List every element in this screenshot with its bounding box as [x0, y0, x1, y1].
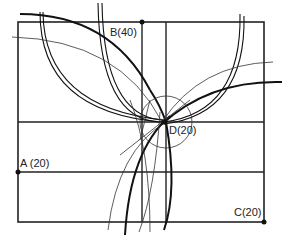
- arc-thin-left: [12, 37, 162, 122]
- arc-u-right-1: [164, 14, 240, 122]
- diagram-canvas: A (20) B(40) C(20) D(20): [0, 0, 293, 245]
- label-a: A (20): [20, 157, 49, 169]
- point-b: [140, 20, 145, 25]
- arc-down-thick-right: [164, 122, 172, 230]
- arc-lens-left-1: [40, 12, 162, 122]
- label-d: D(20): [169, 124, 197, 136]
- label-c: C(20): [234, 206, 262, 218]
- point-d: [162, 120, 167, 125]
- point-a: [16, 170, 21, 175]
- point-c: [262, 220, 267, 225]
- arc-down-thin-left: [108, 122, 166, 230]
- label-b: B(40): [110, 26, 137, 38]
